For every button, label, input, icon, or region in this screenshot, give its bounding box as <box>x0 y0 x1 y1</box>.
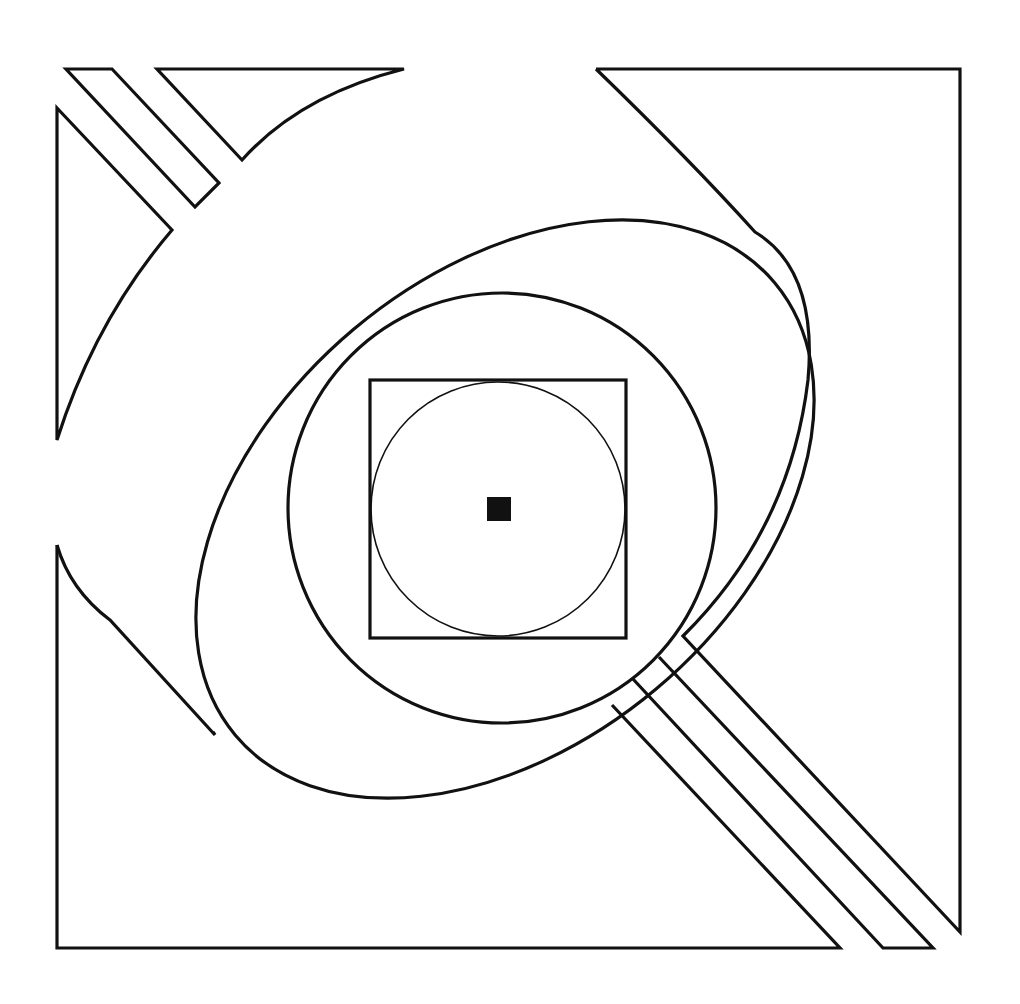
left-lower-wedge <box>57 545 215 735</box>
geometric-drawing <box>0 0 1020 1004</box>
center-square <box>487 497 511 521</box>
large-arc <box>596 69 960 932</box>
bottom-frame <box>57 545 840 948</box>
left-wedge <box>57 108 172 440</box>
stripe-top-left-1 <box>66 69 219 207</box>
top-left-wedge <box>157 69 404 160</box>
stripe-bottom-right-1 <box>633 657 933 948</box>
